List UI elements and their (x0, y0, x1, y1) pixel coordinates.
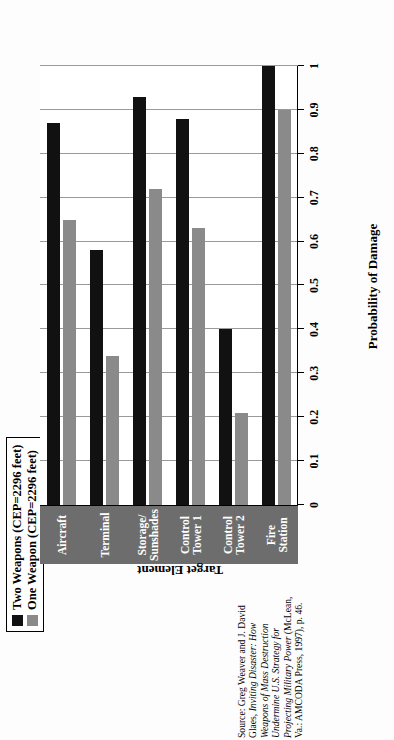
axis-tick (298, 460, 304, 461)
value-axis-tick-label: 0.8 (307, 146, 322, 161)
gridline (40, 241, 298, 242)
bar-two-weapons (219, 329, 232, 505)
category-axis-label: Storage/Sunshades (135, 506, 160, 564)
value-axis-tick-label: 0.2 (307, 410, 322, 425)
category-axis-label: ControlTower 1 (178, 506, 203, 564)
axis-tick (298, 328, 304, 329)
value-axis-tick-label: 0 (307, 502, 322, 508)
value-axis-line (297, 66, 298, 506)
figure: Two Weapons (CEP=2296 feet) One Weapon (… (0, 0, 394, 740)
rotated-figure-wrapper: Two Weapons (CEP=2296 feet) One Weapon (… (0, 0, 394, 740)
bar-two-weapons (133, 97, 146, 505)
value-axis-tick-label: 0.9 (307, 102, 322, 117)
axis-tick (298, 416, 304, 417)
value-axis-tick-label: 0.1 (307, 454, 322, 469)
value-axis-tick-label: 0.5 (307, 278, 322, 293)
bar-two-weapons (47, 123, 60, 505)
axis-tick (298, 197, 304, 198)
plot-container: AircraftTerminalStorage/SunshadesControl… (40, 66, 340, 564)
gridline (40, 328, 298, 329)
value-axis-tick-label: 1 (307, 63, 322, 69)
legend-swatch-one-weapon (27, 615, 38, 626)
plot-area: 00.10.20.30.40.50.60.70.80.91 (40, 66, 298, 506)
legend-label-one-weapon: One Weapon (CEP=2296 feet) (25, 450, 40, 610)
axis-tick (298, 241, 304, 242)
gridline (40, 372, 298, 373)
axis-tick (298, 285, 304, 286)
gridline (40, 460, 298, 461)
bar-two-weapons (176, 119, 189, 505)
bar-one-weapon (278, 110, 291, 505)
bar-one-weapon (192, 228, 205, 505)
category-axis-label: Aircraft (55, 506, 68, 564)
category-axis-label: ControlTower 2 (221, 506, 246, 564)
value-axis-tick-label: 0.7 (307, 190, 322, 205)
bar-one-weapon (106, 356, 119, 505)
gridline (40, 285, 298, 286)
category-band: AircraftTerminalStorage/SunshadesControl… (40, 506, 298, 564)
gridline (40, 109, 298, 110)
axis-tick (298, 153, 304, 154)
axis-tick (298, 109, 304, 110)
gridline (40, 153, 298, 154)
value-axis-tick-label: 0.3 (307, 366, 322, 381)
category-axis-label: Terminal (98, 506, 111, 564)
chart-legend: Two Weapons (CEP=2296 feet) One Weapon (… (6, 437, 44, 632)
bar-one-weapon (235, 413, 248, 505)
bar-one-weapon (63, 220, 76, 505)
bar-one-weapon (149, 189, 162, 505)
legend-item-two-weapons: Two Weapons (CEP=2296 feet) (10, 445, 25, 626)
value-axis-title: Probability of Damage (365, 207, 380, 367)
legend-label-two-weapons: Two Weapons (CEP=2296 feet) (10, 445, 25, 610)
bar-two-weapons (262, 66, 275, 505)
gridline (40, 416, 298, 417)
source-note: Source: Greg Weaver and J. David Glaes, … (236, 588, 304, 738)
gridline (40, 65, 298, 66)
axis-tick (298, 65, 304, 66)
bar-two-weapons (90, 250, 103, 505)
legend-swatch-two-weapons (12, 615, 23, 626)
axis-tick (298, 504, 304, 505)
category-axis-label: FireStation (264, 506, 289, 564)
value-axis-tick-label: 0.6 (307, 234, 322, 249)
axis-tick (298, 372, 304, 373)
category-axis-title: Target Element (120, 562, 240, 578)
value-axis-tick-label: 0.4 (307, 322, 322, 337)
chart-page: Two Weapons (CEP=2296 feet) One Weapon (… (0, 0, 394, 740)
legend-item-one-weapon: One Weapon (CEP=2296 feet) (25, 445, 40, 626)
gridline (40, 197, 298, 198)
